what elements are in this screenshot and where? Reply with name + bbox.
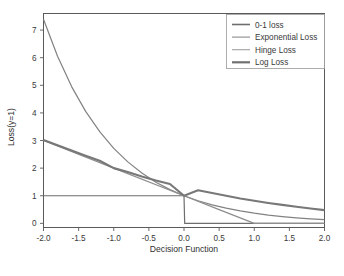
x-tick-label: -0.5 (142, 234, 157, 243)
legend-label: Hinge Loss (255, 46, 296, 55)
legend-label: Log Loss (255, 58, 288, 67)
legend-label: Exponential Loss (255, 33, 317, 42)
x-tick-label: 0.5 (213, 234, 225, 243)
y-tick-label: 0 (32, 219, 37, 228)
chart-legend: 0-1 lossExponential LossHinge LossLog Lo… (227, 15, 325, 69)
x-tick-label: 1.0 (249, 234, 261, 243)
x-axis-ticks: -2.0-1.5-1.0-0.50.00.51.01.52.0 (36, 228, 330, 243)
y-tick-label: 6 (32, 54, 37, 63)
y-tick-label: 1 (32, 192, 37, 201)
curve-0-1-loss (44, 196, 325, 224)
x-tick-label: -1.0 (107, 234, 122, 243)
legend-label: 0-1 loss (255, 21, 284, 30)
x-axis-label: Decision Function (150, 244, 219, 254)
plot-canvas: -2.0-1.5-1.0-0.50.00.51.01.52.0 01234567… (0, 0, 344, 276)
x-tick-label: 1.5 (284, 234, 296, 243)
y-tick-label: 3 (32, 137, 37, 146)
y-tick-label: 7 (32, 26, 37, 35)
x-tick-label: 2.0 (319, 234, 331, 243)
x-tick-label: -2.0 (36, 234, 51, 243)
y-tick-label: 5 (32, 81, 37, 90)
chart-figure: -2.0-1.5-1.0-0.50.00.51.01.52.0 01234567… (0, 0, 344, 276)
y-axis-ticks: 01234567 (32, 26, 44, 228)
y-tick-label: 2 (32, 164, 37, 173)
y-axis-label: Loss(y=1) (6, 108, 16, 146)
y-tick-label: 4 (32, 109, 37, 118)
x-tick-label: 0.0 (178, 234, 190, 243)
x-tick-label: -1.5 (72, 234, 87, 243)
